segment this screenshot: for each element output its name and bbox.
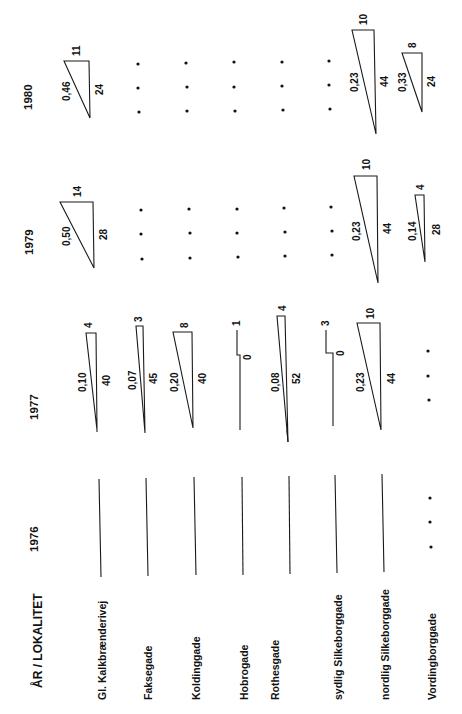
row-1976 xyxy=(99,474,433,577)
svg-text:28: 28 xyxy=(431,223,442,235)
locality-faksegade: Faksegade xyxy=(142,646,154,700)
locality-koldinggade: Koldinggade xyxy=(190,636,202,700)
dots-1980-hobrogade xyxy=(232,60,236,112)
svg-text:4: 4 xyxy=(83,322,94,328)
year-label-1979: 1979 xyxy=(23,229,35,255)
triangle-1977-rothesgade: 4 0,08 52 xyxy=(270,305,302,442)
triangle-1979-vordingborggade: 4 0,14 28 xyxy=(407,184,442,262)
locality-rothesgade: Rothesgade xyxy=(269,640,281,700)
dots-1980-rothesgade xyxy=(280,60,284,111)
locality-nordlig-silkeborggade: nordlig Silkeborggade xyxy=(379,589,391,700)
locality-year-diagram: ÅR / LOKALITET 1976 1977 1979 1980 Gl. K… xyxy=(0,0,462,714)
svg-text:10: 10 xyxy=(365,307,376,319)
line-1976-hobrogade xyxy=(242,477,243,575)
svg-text:0,50: 0,50 xyxy=(61,226,72,246)
dots-1980-sydlig-silkeborg xyxy=(327,59,331,110)
svg-text:44: 44 xyxy=(386,372,397,384)
locality-sydlig-silkeborggade: sydlig Silkeborggade xyxy=(332,594,344,700)
svg-text:10: 10 xyxy=(361,158,372,170)
svg-text:44: 44 xyxy=(379,75,390,87)
locality-hobrogade: Hobrogade xyxy=(238,644,250,700)
dots-1979-rothesgade xyxy=(282,206,286,257)
dots-1980-koldinggade xyxy=(184,61,188,112)
row-1980: 11 0,46 24 10 0,23 44 8 0,33 24 xyxy=(61,13,437,134)
locality-gl-kalkbraenderivej: Gl. Kalkbrænderivej xyxy=(96,601,108,700)
svg-text:3: 3 xyxy=(320,320,331,326)
svg-text:45: 45 xyxy=(148,372,159,384)
triangle-1980-nordlig-silkeborg: 10 0,23 44 xyxy=(349,13,390,134)
dots-1979-hobrogade xyxy=(235,207,239,258)
svg-text:0,14: 0,14 xyxy=(407,221,418,241)
header-title: ÅR / LOKALITET xyxy=(30,593,45,688)
svg-text:11: 11 xyxy=(71,45,82,56)
line-1976-rothesgade xyxy=(289,476,290,574)
svg-text:0,07: 0,07 xyxy=(127,370,138,390)
dots-1979-koldinggade xyxy=(187,207,191,259)
svg-text:4: 4 xyxy=(277,305,288,311)
svg-text:0,46: 0,46 xyxy=(61,81,72,101)
svg-text:0: 0 xyxy=(335,350,346,356)
step-1977-sydlig-silkeborg: 3 0 xyxy=(320,320,346,426)
year-label-1976: 1976 xyxy=(28,526,40,552)
svg-text:40: 40 xyxy=(197,372,208,384)
triangle-1977-gl-kalk: 4 0,10 40 xyxy=(77,322,112,432)
svg-text:44: 44 xyxy=(382,222,393,234)
line-1976-koldinggade xyxy=(194,477,196,575)
triangle-1980-gl-kalk: 11 0,46 24 xyxy=(61,45,105,118)
svg-text:8: 8 xyxy=(407,42,418,48)
svg-text:8: 8 xyxy=(179,322,190,328)
line-1976-gl-kalk xyxy=(99,479,101,577)
svg-text:0,10: 0,10 xyxy=(77,372,88,392)
svg-text:0,23: 0,23 xyxy=(351,221,362,241)
line-1976-sydlig-silkeborg xyxy=(335,475,337,573)
row-1977: 4 0,10 40 3 0,07 45 8 0,20 40 1 0 4 xyxy=(77,305,431,442)
dots-1977-vordingborggade xyxy=(426,349,430,401)
triangle-1980-vordingborggade: 8 0,33 24 xyxy=(397,42,437,112)
year-label-1980: 1980 xyxy=(22,84,34,110)
svg-text:0: 0 xyxy=(242,354,253,360)
row-1979: 14 0,50 28 10 0,23 44 4 0,14 28 xyxy=(60,158,442,283)
svg-text:0,20: 0,20 xyxy=(169,372,180,392)
svg-text:0,23: 0,23 xyxy=(349,72,360,92)
line-1976-faksegade xyxy=(146,478,148,576)
svg-text:14: 14 xyxy=(72,185,83,197)
triangle-1977-nordlig-silkeborg: 10 0,23 44 xyxy=(355,307,397,430)
dots-1980-faksegade xyxy=(136,62,140,113)
triangle-1977-koldinggade: 8 0,20 40 xyxy=(169,322,208,428)
dots-1976-vordingborggade xyxy=(428,496,432,548)
svg-text:24: 24 xyxy=(426,75,437,87)
svg-text:3: 3 xyxy=(133,316,144,322)
svg-text:24: 24 xyxy=(94,83,105,95)
dots-1979-sydlig-silkeborg xyxy=(329,205,333,256)
dots-1979-faksegade xyxy=(139,208,143,260)
svg-text:0,08: 0,08 xyxy=(270,372,281,392)
svg-text:4: 4 xyxy=(415,184,426,190)
year-label-1977: 1977 xyxy=(28,394,40,420)
svg-text:0,33: 0,33 xyxy=(397,72,408,92)
step-1977-hobrogade: 1 0 xyxy=(231,320,253,430)
svg-text:1: 1 xyxy=(231,320,242,326)
svg-text:40: 40 xyxy=(101,374,112,386)
svg-text:28: 28 xyxy=(98,228,109,240)
svg-text:52: 52 xyxy=(291,372,302,384)
line-1976-nordlig-silkeborg xyxy=(382,474,384,572)
locality-vordingborggade: Vordingborggade xyxy=(426,613,438,700)
triangle-1979-nordlig-silkeborg: 10 0,23 44 xyxy=(351,158,393,283)
triangle-1979-gl-kalk: 14 0,50 28 xyxy=(60,185,109,268)
svg-text:0,23: 0,23 xyxy=(355,372,366,392)
svg-text:10: 10 xyxy=(358,13,369,25)
triangle-1977-faksegade: 3 0,07 45 xyxy=(127,316,159,433)
